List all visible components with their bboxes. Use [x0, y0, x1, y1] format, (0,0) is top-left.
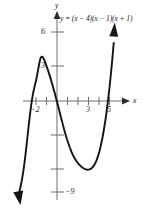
- x-tick-label-5: 5: [107, 106, 111, 114]
- y-tick-label-neg9: −9: [65, 188, 74, 196]
- y-axis-label: y: [55, 2, 59, 10]
- x-axis-arrow-icon: [122, 98, 130, 105]
- graph-figure: y x y = (x − 4)(x − 1)(x + 1) 6 3 −9 −2 …: [0, 0, 144, 220]
- equation-label: y = (x − 4)(x − 1)(x + 1): [60, 15, 132, 23]
- curve-up-arrow-icon: [109, 23, 118, 37]
- curve-down-arrow-icon: [13, 191, 23, 205]
- y-tick-label-3: 3: [41, 62, 45, 70]
- function-curve: [17, 43, 114, 197]
- x-axis-label: x: [133, 97, 137, 105]
- x-tick-label-neg2: −2: [30, 106, 39, 114]
- y-tick-label-6: 6: [41, 28, 45, 36]
- x-tick-label-3: 3: [86, 106, 90, 114]
